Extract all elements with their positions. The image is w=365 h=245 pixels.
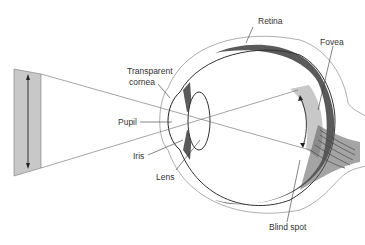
label-blind-spot: Blind spot xyxy=(269,222,306,232)
eye-diagram xyxy=(0,0,365,245)
label-cornea-1: Transparent xyxy=(127,66,173,76)
label-fovea: Fovea xyxy=(320,37,344,47)
object-rectangle xyxy=(14,69,41,176)
label-iris: Iris xyxy=(133,151,144,161)
ray-bottom xyxy=(41,90,298,168)
label-lens: Lens xyxy=(156,172,174,182)
cornea-outline xyxy=(160,88,168,150)
label-pupil: Pupil xyxy=(118,117,137,127)
ray-top xyxy=(41,74,310,150)
label-cornea-2: cornea xyxy=(129,77,155,87)
label-retina: Retina xyxy=(258,16,283,26)
